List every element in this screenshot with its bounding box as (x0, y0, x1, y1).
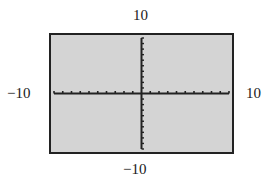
coordinate-axes (51, 35, 232, 152)
x-min-label: −10 (7, 86, 30, 101)
y-max-label: 10 (133, 8, 148, 23)
x-max-label: 10 (246, 86, 261, 101)
calculator-viewing-window (49, 33, 234, 154)
y-min-label: −10 (123, 162, 146, 177)
